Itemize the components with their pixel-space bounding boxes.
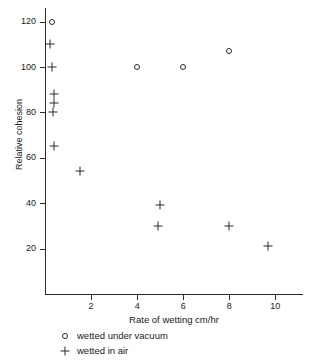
plus-marker-icon: [225, 221, 234, 230]
y-axis-tick: [40, 203, 45, 204]
legend-label: wetted under vacuum: [77, 331, 168, 341]
circle-marker-icon: [49, 19, 55, 25]
x-axis-tick-label: 10: [263, 302, 287, 311]
scatter-chart-figure: 20406080100120 246810 Relative cohesion …: [0, 0, 309, 361]
x-axis-line: [45, 294, 303, 295]
legend-symbol: [60, 330, 72, 341]
plus-marker-icon: [61, 347, 70, 356]
plus-marker-icon: [264, 242, 273, 251]
circle-marker-icon: [134, 64, 140, 70]
x-axis-tick: [91, 295, 92, 300]
plus-marker-icon: [49, 108, 58, 117]
y-axis-tick: [40, 158, 45, 159]
plus-marker-icon: [153, 221, 162, 230]
y-axis-tick: [40, 22, 45, 23]
plus-marker-icon: [50, 90, 59, 99]
plus-marker-icon: [47, 63, 56, 72]
x-axis-tick-label: 6: [171, 302, 195, 311]
legend-item: wetted in air: [60, 343, 260, 358]
y-axis-tick: [40, 67, 45, 68]
y-axis-tick: [40, 112, 45, 113]
circle-marker-icon: [180, 64, 186, 70]
legend-item: wetted under vacuum: [60, 328, 260, 343]
legend-symbol: [60, 345, 72, 356]
plot-area: 20406080100120 246810 Relative cohesion …: [0, 0, 309, 310]
y-axis-tick: [40, 249, 45, 250]
y-axis-tick-label: 40: [10, 199, 36, 208]
legend-label: wetted in air: [77, 346, 128, 356]
y-axis-tick-label: 120: [10, 17, 36, 26]
plus-marker-icon: [75, 167, 84, 176]
plus-marker-icon: [156, 201, 165, 210]
circle-marker-icon: [62, 333, 68, 339]
x-axis-tick: [229, 295, 230, 300]
y-axis-title: Relative cohesion: [15, 70, 24, 200]
plus-marker-icon: [45, 40, 54, 49]
x-axis-tick: [275, 295, 276, 300]
circle-marker-icon: [226, 48, 232, 54]
x-axis-tick-label: 4: [125, 302, 149, 311]
x-axis-title: Rate of wetting cm/hr: [45, 315, 303, 325]
chart-legend: wetted under vacuumwetted in air: [60, 328, 260, 358]
plus-marker-icon: [50, 99, 59, 108]
y-axis-line: [45, 8, 46, 295]
x-axis-tick: [137, 295, 138, 300]
x-axis-tick: [183, 295, 184, 300]
x-axis-tick-label: 2: [79, 302, 103, 311]
x-axis-tick-label: 8: [217, 302, 241, 311]
plus-marker-icon: [50, 142, 59, 151]
y-axis-tick-label: 20: [10, 244, 36, 253]
